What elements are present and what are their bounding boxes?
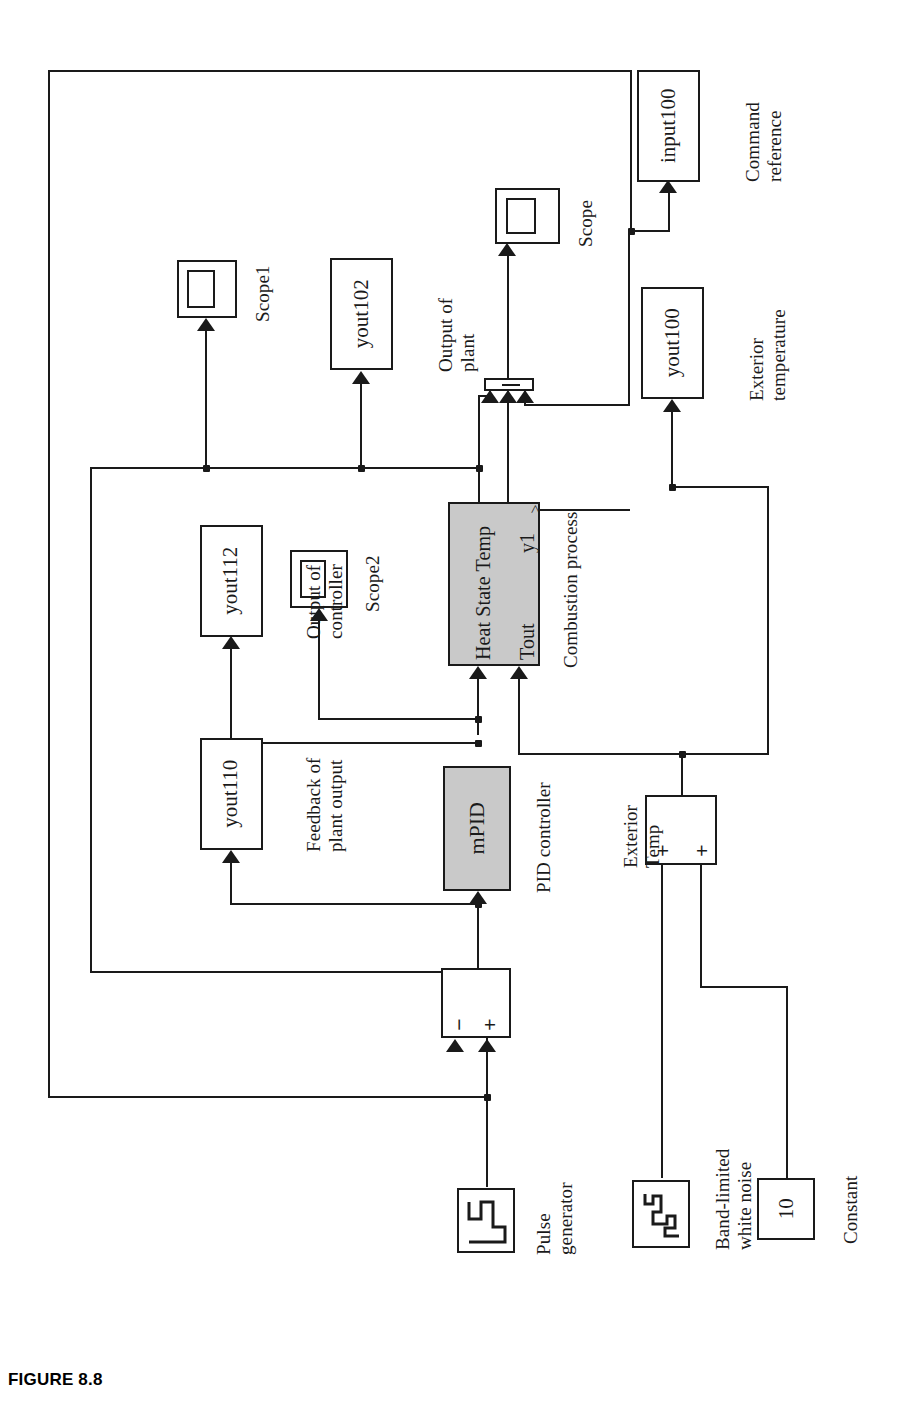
- caption-feedback-of-plant-output: Feedback of plant output: [303, 758, 348, 852]
- junction-pulse-outer-loop: [484, 1094, 491, 1101]
- arrow-mux-in-3: [516, 390, 534, 403]
- caption-output-of-controller: Output of controller: [303, 564, 348, 639]
- wire-tout-up: [518, 678, 520, 755]
- caption-combustion-process-text: Combustion process: [560, 512, 581, 668]
- caption-pulse-generator-line1: Pulse: [533, 1213, 554, 1255]
- figure-canvas: input100 Command reference Scope Scope1 …: [0, 0, 898, 1413]
- wire-noise-up: [661, 818, 663, 1178]
- white-noise-waveform-icon: [641, 1190, 685, 1242]
- block-input100[interactable]: input100: [637, 70, 700, 182]
- caption-output-of-plant: Output of plant: [435, 298, 480, 372]
- block-input100-label: input100: [657, 89, 681, 164]
- wire-feedback-left-vertical: [90, 467, 92, 973]
- error-sum-sign-plus: +: [479, 1018, 500, 1030]
- caption-pid-controller-text: PID controller: [533, 782, 554, 893]
- block-mpid-controller[interactable]: mPID: [443, 766, 511, 891]
- caption-scope1-text: Scope1: [252, 265, 273, 322]
- arrow-into-yout112: [222, 636, 240, 649]
- wire-plant-out-to-scope1: [205, 330, 207, 469]
- caption-scope2-text: Scope2: [362, 555, 383, 612]
- wire-yout110-up: [230, 862, 232, 905]
- junction-exttemp-bus: [669, 484, 676, 491]
- arrow-into-controller: [469, 891, 487, 904]
- caption-scope: Scope: [575, 200, 596, 247]
- wire-extsum-right: [681, 753, 769, 755]
- wire-outer-left-vertical: [48, 70, 50, 1098]
- caption-exterior-temp: Exterior Temp: [620, 805, 665, 868]
- port-label-tout: Tout: [516, 623, 538, 660]
- wire-tout-horiz: [518, 753, 683, 755]
- junction-plant-out-scope1: [203, 465, 210, 472]
- block-yout112[interactable]: yout112: [200, 525, 263, 637]
- block-constant[interactable]: 10: [757, 1178, 815, 1240]
- block-yout110[interactable]: yout110: [200, 738, 263, 850]
- block-scope[interactable]: [495, 188, 560, 244]
- block-yout100-label: yout100: [661, 309, 685, 378]
- wire-err-to-yout110: [230, 903, 479, 905]
- arrow-into-scope: [498, 243, 516, 256]
- block-scope1[interactable]: [177, 260, 237, 318]
- caption-band-limited-white-noise: Band-limited white noise: [712, 1149, 757, 1250]
- wire-const-down: [786, 986, 788, 1178]
- caption-command-reference-line1: Command: [742, 102, 763, 182]
- wire-input100-up: [668, 192, 670, 232]
- caption-scope-text: Scope: [575, 200, 596, 247]
- wire-exttemp-right: [767, 486, 769, 753]
- wire-ext-to-mux-horiz: [524, 404, 630, 406]
- wire-err-out-up: [477, 903, 479, 968]
- caption-feedback-line1: Feedback of: [303, 758, 324, 852]
- caption-command-reference-line2: reference: [764, 110, 785, 182]
- wire-const-horiz: [700, 986, 788, 988]
- junction-extsum-out: [679, 751, 686, 758]
- junction-ctrl-out-yout112: [475, 740, 482, 747]
- arrow-into-yout110: [222, 850, 240, 863]
- caption-noise-line1: Band-limited: [712, 1149, 733, 1250]
- caption-scope1: Scope1: [252, 265, 273, 322]
- wire-y1-up-1: [478, 395, 480, 503]
- wire-yout112-up: [230, 648, 232, 744]
- caption-exterior-temperature-line2: temperature: [768, 309, 789, 401]
- arrow-mux-in-1: [481, 390, 499, 403]
- block-yout102[interactable]: yout102: [330, 258, 393, 370]
- wire-ctrl-out-up: [477, 678, 479, 735]
- caption-noise-line2: white noise: [734, 1162, 755, 1250]
- scope-screen-icon: [506, 198, 536, 234]
- caption-scope2: Scope2: [362, 555, 383, 612]
- caption-output-of-plant-line1: Output of: [435, 298, 456, 372]
- arrow-mux-in-2: [499, 390, 517, 403]
- wire-feedback-top: [90, 467, 478, 469]
- wire-outer-bottom: [48, 1096, 486, 1098]
- wire-ref-to-mux: [507, 391, 509, 511]
- block-pulse-generator[interactable]: [457, 1188, 515, 1253]
- wire-ext-right-vert: [628, 230, 630, 406]
- scope1-screen-icon: [187, 270, 215, 308]
- block-yout112-label: yout112: [220, 547, 244, 615]
- wire-outer-right-vertical: [630, 70, 632, 230]
- wire-ctrl-to-scope2: [318, 718, 479, 720]
- caption-combustion-process: Combustion process: [560, 512, 581, 668]
- caption-output-of-plant-line2: plant: [457, 334, 478, 373]
- block-band-limited-white-noise[interactable]: [632, 1180, 690, 1248]
- block-yout102-label: yout102: [350, 280, 374, 349]
- wire-outer-top: [48, 70, 632, 72]
- arrow-err-sum-minus: [446, 1039, 464, 1052]
- ext-sum-sign-plus-2: +: [691, 844, 712, 856]
- arrow-into-plant-heat-state-temp: [469, 666, 487, 679]
- junction-scope-tap: [628, 228, 635, 235]
- port-label-y1: y1: [516, 533, 538, 553]
- wire-mux-to-scope: [507, 255, 509, 379]
- caption-exterior-temperature: Exterior temperature: [746, 309, 791, 401]
- caption-output-of-controller-line1: Output of: [303, 565, 324, 639]
- arrow-err-sum-plus: [478, 1039, 496, 1052]
- caption-pulse-generator-line2: generator: [555, 1182, 576, 1255]
- wire-extsum-out: [681, 753, 683, 795]
- block-yout100[interactable]: yout100: [641, 287, 704, 399]
- arrow-into-yout100: [663, 399, 681, 412]
- mux-slit-icon: [502, 384, 520, 386]
- output-port-marker-icon: >: [527, 504, 545, 513]
- caption-constant-text: Constant: [840, 1176, 861, 1244]
- arrow-into-yout102: [352, 371, 370, 384]
- figure-caption: FIGURE 8.8: [8, 1370, 103, 1390]
- error-sum-sign-minus: −: [448, 1018, 469, 1030]
- block-mux[interactable]: [484, 378, 534, 391]
